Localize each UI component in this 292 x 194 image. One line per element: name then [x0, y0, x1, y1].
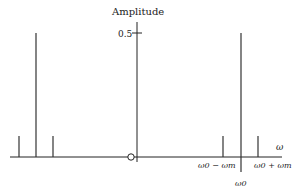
amplitude-spectrum-chart: Amplitude 0.5 ω ω0 − ωm ω0 + ωm ω0	[0, 0, 292, 194]
chart-svg: Amplitude 0.5 ω ω0 − ωm ω0 + ωm ω0	[0, 0, 292, 194]
upper-sideband-label: ω0 + ωm	[254, 161, 292, 170]
y-tick-label: 0.5	[118, 29, 133, 39]
y-axis-label: Amplitude	[111, 6, 164, 17]
lower-sideband-label: ω0 − ωm	[198, 161, 236, 170]
origin-marker	[128, 154, 134, 160]
x-axis-label-omega: ω	[276, 142, 284, 152]
carrier-label: ω0	[235, 179, 247, 188]
